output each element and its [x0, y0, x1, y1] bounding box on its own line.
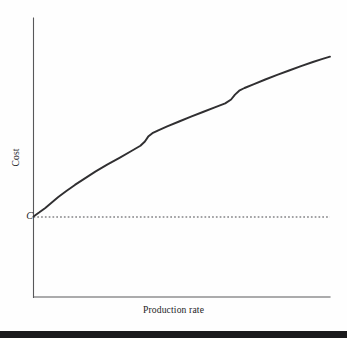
fixed-cost-marker-label: C [23, 210, 33, 221]
chart-plot-area [0, 0, 347, 338]
y-axis-label: Cost [10, 136, 21, 180]
cost-vs-production-rate-figure: Production rate Cost C [0, 0, 347, 338]
x-axis-label: Production rate [0, 304, 347, 315]
total-cost-curve [34, 57, 331, 217]
bottom-page-bar [0, 331, 347, 338]
y-axis-label-container: Cost [4, 130, 26, 190]
